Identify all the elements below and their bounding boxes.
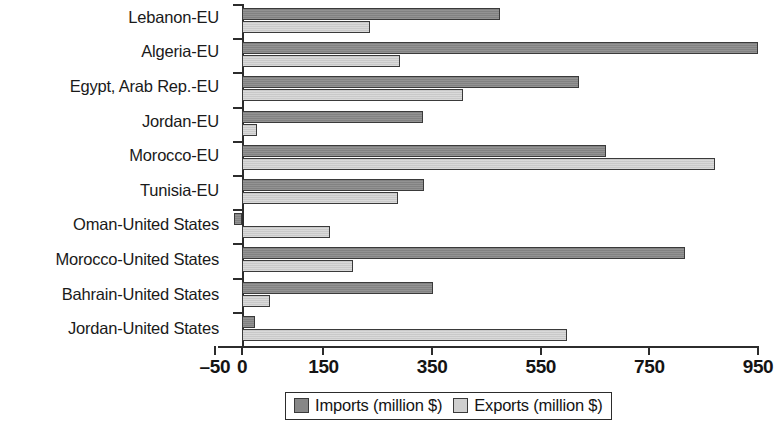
bar-group [0, 141, 777, 175]
bar-group [0, 278, 777, 312]
bar-group [0, 209, 777, 243]
x-axis-line [218, 346, 759, 348]
bar-exports [242, 329, 567, 341]
x-axis-tick-label: 750 [634, 356, 665, 378]
x-axis-tick [757, 346, 759, 355]
bar-exports [242, 226, 330, 238]
plot-area: Lebanon-EU Algeria-EU Egypt, Arab Rep.-E… [0, 0, 777, 350]
bar-imports [242, 282, 433, 294]
x-axis-tick-label: –50 [200, 356, 231, 378]
bar-group [0, 175, 777, 209]
bar-chart: Lebanon-EU Algeria-EU Egypt, Arab Rep.-E… [0, 0, 777, 423]
bar-imports [242, 76, 579, 88]
bar-exports [242, 295, 270, 307]
bar-imports [242, 42, 758, 54]
legend: Imports (million $) Exports (million $) [285, 392, 612, 420]
bar-imports [242, 316, 255, 328]
bars-container [0, 4, 777, 346]
bar-group [0, 72, 777, 106]
bar-exports [242, 21, 370, 33]
bar-exports [242, 89, 463, 101]
x-axis-tick-label: 0 [237, 356, 247, 378]
bar-exports [242, 55, 400, 67]
bar-group [0, 243, 777, 277]
bar-imports [242, 8, 500, 20]
x-axis-tick [648, 346, 650, 355]
legend-label-imports: Imports (million $) [315, 396, 442, 415]
bar-exports [242, 192, 398, 204]
bar-group [0, 107, 777, 141]
bar-imports [234, 213, 242, 225]
bar-imports [242, 179, 424, 191]
bar-group [0, 38, 777, 72]
bar-imports [242, 145, 606, 157]
legend-label-exports: Exports (million $) [474, 396, 602, 415]
x-axis-tick-label: 550 [525, 356, 556, 378]
bar-group [0, 312, 777, 346]
x-axis-tick [322, 346, 324, 355]
x-axis-tick-label: 950 [743, 356, 774, 378]
x-axis-tick [540, 346, 542, 355]
bar-imports [242, 247, 685, 259]
legend-item-imports: Imports (million $) [294, 396, 442, 415]
x-axis-tick [431, 346, 433, 355]
legend-item-exports: Exports (million $) [453, 396, 602, 415]
x-axis-tick [241, 346, 243, 355]
x-axis-tick-label: 350 [417, 356, 448, 378]
bar-imports [242, 111, 423, 123]
x-axis-tick-label: 150 [308, 356, 339, 378]
x-axis-tick [214, 346, 216, 355]
legend-swatch-imports-icon [294, 398, 309, 413]
bar-group [0, 4, 777, 38]
legend-swatch-exports-icon [453, 398, 468, 413]
bar-exports [242, 260, 353, 272]
bar-exports [242, 124, 257, 136]
bar-exports [242, 158, 715, 170]
